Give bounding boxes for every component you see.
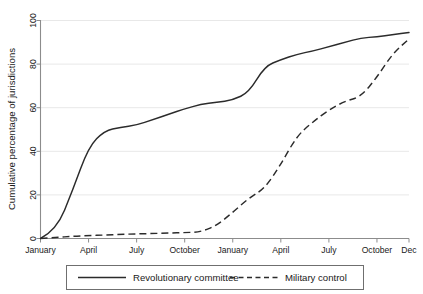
x-tick-label: January	[217, 245, 248, 255]
line-chart: 020406080100 JanuaryAprilJulyOctoberJanu…	[0, 0, 423, 294]
y-tick-label: 60	[28, 103, 38, 113]
y-axis-title: Cumulative percentage of jurisdictions	[6, 48, 17, 210]
y-tick-label: 80	[28, 59, 38, 69]
y-tick-label: 0	[28, 236, 38, 241]
y-tick-label: 40	[28, 146, 38, 156]
chart-legend: Revolutionary committeeMilitary control	[67, 266, 364, 290]
x-tick-label: October	[362, 245, 393, 255]
x-tick-label: April	[272, 245, 289, 255]
y-tick-label: 20	[28, 190, 38, 200]
legend-label-revolutionary-committee: Revolutionary committee	[133, 272, 239, 283]
legend-label-military-control: Military control	[285, 272, 347, 283]
y-tick-label: 100	[28, 13, 38, 28]
x-tick-label: July	[321, 245, 337, 255]
x-tick-label: Dec	[401, 245, 417, 255]
x-tick-label: October	[169, 245, 200, 255]
x-tick-label: July	[129, 245, 145, 255]
x-tick-label: April	[80, 245, 97, 255]
chart-background	[0, 0, 423, 294]
chart-container: 020406080100 JanuaryAprilJulyOctoberJanu…	[0, 0, 423, 294]
x-tick-label: January	[25, 245, 56, 255]
